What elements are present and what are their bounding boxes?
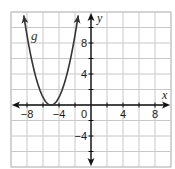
y-tick-label: 4 bbox=[81, 68, 87, 80]
origin-label: 0 bbox=[81, 108, 87, 120]
y-tick-label: 8 bbox=[81, 37, 87, 49]
x-tick-label: −4 bbox=[53, 108, 66, 120]
y-tick-label: −4 bbox=[74, 130, 87, 142]
curve-label-g: g bbox=[31, 28, 38, 43]
x-tick-label: 4 bbox=[120, 108, 126, 120]
x-tick-label: 8 bbox=[152, 108, 158, 120]
y-axis-label: y bbox=[96, 11, 103, 25]
coordinate-plane: −8−44884−40 g x y bbox=[0, 0, 175, 169]
x-axis-label: x bbox=[161, 88, 168, 102]
x-tick-label: −8 bbox=[21, 108, 34, 120]
